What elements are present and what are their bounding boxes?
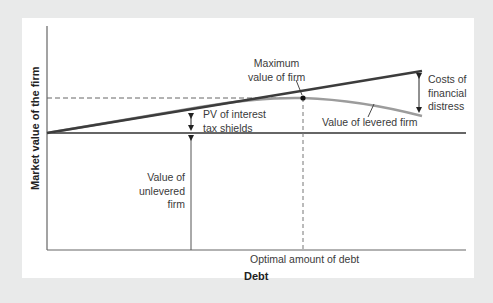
chart-svg [0,0,493,303]
max-value-label-line1: Maximum [248,57,305,71]
unlevered-label-line3: firm [135,198,185,212]
pv-label-line1: PV of interest [203,108,266,122]
y-axis-label: Market value of the firm [29,67,41,190]
max-value-label: Maximum value of firm [248,57,305,84]
pv-label-line2: tax shields [203,122,266,136]
max-value-point [300,95,305,100]
unlevered-label-line2: unlevered [135,185,185,199]
distress-label-line1: Costs of [428,73,467,87]
unlevered-label: Value of unlevered firm [135,171,185,212]
pv-tax-shield-label: PV of interest tax shields [203,108,266,135]
distress-label-line2: financial [428,87,467,101]
unlevered-label-line1: Value of [135,171,185,185]
max-value-label-line2: value of firm [248,71,305,85]
levered-label: Value of levered firm [322,116,418,130]
distress-label: Costs of financial distress [428,73,467,114]
distress-label-line3: distress [428,100,467,114]
x-axis-label: Debt [244,270,268,282]
optimal-debt-label: Optimal amount of debt [250,253,359,267]
